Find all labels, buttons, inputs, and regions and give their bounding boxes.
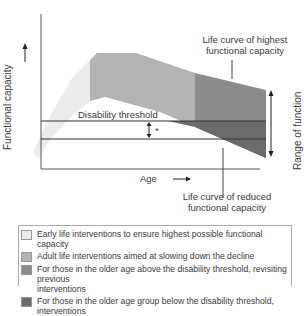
x-axis-label: Age <box>140 173 157 184</box>
older-above-swatch <box>21 265 32 275</box>
legend: Early life interventions to ensure highe… <box>18 225 292 286</box>
older-below-swatch <box>21 297 32 307</box>
legend-item-older-below: For those in the older age group below t… <box>21 296 291 316</box>
disability-threshold-label: Disability threshold <box>78 109 158 120</box>
bottom-annotation: Life curve of reduced functional capacit… <box>172 191 282 213</box>
range-of-function-label: Range of function <box>292 92 303 170</box>
older-above-band <box>195 73 266 127</box>
functional-capacity-diagram: Functional capacity Disability threshold… <box>0 0 304 200</box>
asterisk-marker: * <box>155 125 159 136</box>
y-axis-label: Functional capacity <box>2 64 13 150</box>
legend-item-adult: Adult life interventions aimed at slowin… <box>21 251 291 262</box>
top-annotation: Life curve of highest functional capacit… <box>190 34 300 56</box>
adult-swatch <box>21 252 32 262</box>
diagram-graphic <box>0 0 304 200</box>
legend-item-older-above: For those in the older age above the dis… <box>21 264 291 294</box>
legend-item-early: Early life interventions to ensure highe… <box>21 229 291 249</box>
early-swatch <box>21 230 32 240</box>
